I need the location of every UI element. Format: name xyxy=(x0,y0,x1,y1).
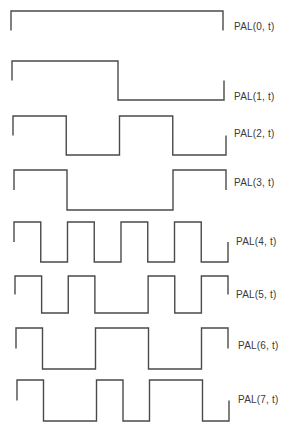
waveform-pal-1 xyxy=(12,61,224,100)
waveform-pal-0 xyxy=(11,11,223,31)
walsh-paley-diagram xyxy=(0,0,292,428)
waveform-pal-3 xyxy=(14,170,226,210)
waveform-label-pal-1: PAL(1, t) xyxy=(234,91,275,102)
waveform-pal-7 xyxy=(17,380,229,421)
waveform-label-pal-2: PAL(2, t) xyxy=(234,128,275,139)
waveform-pal-6 xyxy=(16,328,228,369)
waveform-pal-2 xyxy=(13,116,226,155)
waveform-pal-4 xyxy=(14,222,228,262)
waveform-label-pal-5: PAL(5, t) xyxy=(236,289,277,300)
waveform-label-pal-3: PAL(3, t) xyxy=(234,177,275,188)
waveform-label-pal-6: PAL(6, t) xyxy=(238,340,279,351)
waveform-label-pal-7: PAL(7, t) xyxy=(238,394,279,405)
waveform-label-pal-0: PAL(0, t) xyxy=(234,21,275,32)
waveform-label-pal-4: PAL(4, t) xyxy=(236,236,277,247)
waveform-pal-5 xyxy=(15,276,228,313)
